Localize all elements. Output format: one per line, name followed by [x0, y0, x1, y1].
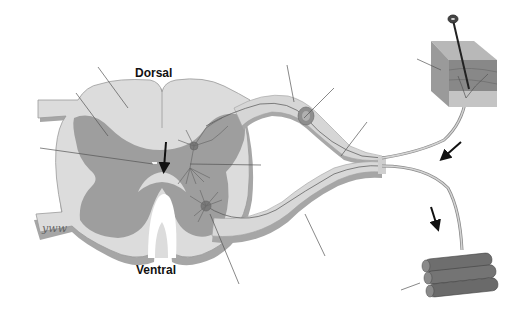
reflex-arc-diagram: Dorsal Ventral yww: [0, 0, 521, 311]
diagram-canvas: [0, 0, 521, 311]
skin-block: [431, 41, 497, 107]
leader-dorsal-root-ganglion: [304, 88, 334, 118]
ventral-label: Ventral: [136, 263, 176, 277]
leader-effector-muscle: [401, 283, 420, 290]
artist-signature: yww: [42, 222, 67, 235]
leader-ventral-root: [305, 214, 325, 256]
dorsal-label: Dorsal: [135, 66, 172, 80]
arrow-motor-icon: [431, 207, 437, 226]
muscle-bundle: [422, 252, 499, 297]
motor-nerve: [382, 166, 462, 250]
arrow-sensory-icon: [444, 142, 461, 157]
